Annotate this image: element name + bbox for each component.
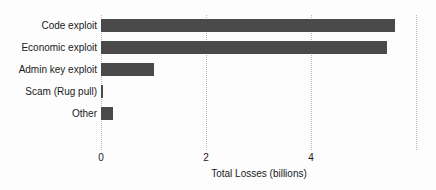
- y-axis-label-other: Other: [0, 103, 97, 125]
- plot-area: [101, 15, 417, 150]
- bar-economic-exploit: [101, 41, 387, 54]
- bar-row: [101, 37, 417, 59]
- bar-chart: Code exploit Economic exploit Admin key …: [0, 0, 436, 190]
- y-axis-label-scam-rug-pull: Scam (Rug pull): [0, 81, 97, 103]
- bar-code-exploit: [101, 19, 395, 32]
- bar-row: [101, 15, 417, 37]
- bar-row: [101, 103, 417, 125]
- bar-admin-key-exploit: [101, 63, 154, 76]
- y-axis-category-labels: Code exploit Economic exploit Admin key …: [0, 15, 97, 150]
- x-axis-tick-2: 2: [186, 152, 226, 163]
- y-axis-label-admin-key-exploit: Admin key exploit: [0, 59, 97, 81]
- x-axis-tick-0: 0: [81, 152, 121, 163]
- x-axis-tick-4: 4: [291, 152, 331, 163]
- bar-other: [101, 107, 113, 120]
- y-axis-label-economic-exploit: Economic exploit: [0, 37, 97, 59]
- bar-row: [101, 59, 417, 81]
- bars-group: [101, 15, 417, 150]
- bar-scam-rug-pull: [101, 85, 103, 98]
- x-axis-title: Total Losses (billions): [101, 168, 417, 179]
- bar-row: [101, 81, 417, 103]
- y-axis-label-code-exploit: Code exploit: [0, 15, 97, 37]
